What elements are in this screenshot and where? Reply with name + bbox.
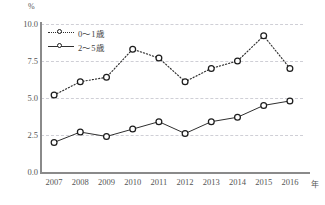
data-point[interactable]: [130, 126, 136, 132]
data-point[interactable]: [182, 79, 188, 85]
data-point[interactable]: [130, 46, 136, 52]
chart-legend: 0～1歳 2～5歳: [48, 27, 105, 52]
data-point[interactable]: [235, 58, 241, 64]
data-point[interactable]: [287, 98, 293, 104]
data-point[interactable]: [51, 92, 57, 98]
data-point[interactable]: [77, 79, 83, 85]
data-point[interactable]: [104, 134, 110, 140]
data-point[interactable]: [156, 55, 162, 61]
legend-label-1: 2～5歳: [78, 41, 105, 53]
data-point[interactable]: [51, 140, 57, 146]
data-point[interactable]: [235, 114, 241, 120]
legend-marker-dotted-icon: [48, 27, 74, 38]
data-point[interactable]: [182, 131, 188, 137]
legend-marker-solid-icon: [48, 41, 74, 52]
data-point[interactable]: [77, 129, 83, 135]
legend-item-0[interactable]: 0～1歳: [48, 27, 105, 38]
data-point[interactable]: [104, 74, 110, 80]
data-point[interactable]: [156, 119, 162, 125]
data-point[interactable]: [261, 33, 267, 39]
legend-label-0: 0～1歳: [78, 27, 105, 39]
data-point[interactable]: [287, 66, 293, 72]
data-point[interactable]: [261, 103, 267, 109]
series-1: [51, 98, 293, 145]
legend-item-1[interactable]: 2～5歳: [48, 41, 105, 52]
data-point[interactable]: [208, 119, 214, 125]
data-point[interactable]: [208, 66, 214, 72]
line-chart: % 0.02.55.07.510.0 200720082009201020112…: [0, 0, 325, 205]
series-line-1: [54, 101, 290, 142]
